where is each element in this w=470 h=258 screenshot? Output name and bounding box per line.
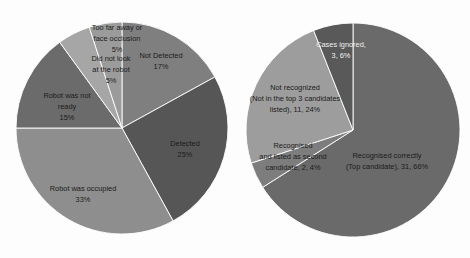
- pie-label-second-candidate-line-1: Recognised: [273, 141, 312, 150]
- pie-label-too-far-away-line-2: face occlusion: [94, 34, 141, 43]
- right-pie-slices: [246, 23, 460, 237]
- pie-label-not-detected-line-1: Not Detected: [139, 51, 182, 60]
- pie-label-not-recognized-line-2: (Not in the top 3 candidates: [250, 94, 341, 103]
- right-pie-chart-svg: Recognised correctly (Top candidate), 31…: [235, 0, 470, 258]
- pie-label-detected-line-2: 25%: [178, 150, 193, 159]
- pie-label-not-recognized-line-3: listed), 11, 24%: [270, 105, 321, 114]
- pie-label-recognised-correctly-line-2: (Top candidate), 31, 66%: [346, 162, 429, 171]
- pie-label-recognised-correctly-line-1: Recognised correctly: [352, 151, 421, 160]
- pie-label-robot-was-occupied-line-2: 33%: [76, 195, 91, 204]
- pie-label-not-detected-line-2: 17%: [154, 62, 169, 71]
- pie-label-not-recognized-line-1: Not recognized: [270, 83, 320, 92]
- pie-label-cases-ignored-line-1: Cases ignored,: [316, 40, 366, 49]
- pie-label-second-candidate-line-2: and listed as second: [259, 152, 326, 161]
- pie-label-second-candidate-line-3: candidate, 2, 4%: [265, 163, 320, 172]
- pie-label-robot-was-occupied-line-1: Robot was occupied: [50, 184, 117, 193]
- pie-label-robot-was-not-ready-line-3: 15%: [60, 113, 75, 122]
- pie-label-robot-was-not-ready-line-1: Robot was not: [43, 91, 90, 100]
- pie-label-robot-was-not-ready-line-2: ready: [58, 102, 77, 111]
- pie-label-did-not-look-line-3: 5%: [106, 76, 117, 85]
- pie-label-did-not-look-line-2: at the robot: [92, 65, 129, 74]
- left-pie-chart-panel: Not Detected 17% Detected 25% Robot was …: [0, 0, 235, 258]
- left-pie-chart-svg: Not Detected 17% Detected 25% Robot was …: [0, 0, 235, 258]
- pie-label-did-not-look-line-1: Did not look: [91, 54, 130, 63]
- pie-chart-figure: Not Detected 17% Detected 25% Robot was …: [0, 0, 470, 258]
- pie-label-cases-ignored-line-2: 3, 6%: [332, 51, 351, 60]
- pie-label-detected-line-1: Detected: [170, 139, 200, 148]
- right-pie-chart-panel: Recognised correctly (Top candidate), 31…: [235, 0, 470, 258]
- pie-label-too-far-away-line-1: Too far away or: [92, 23, 143, 32]
- pie-label-too-far-away-line-3: 5%: [112, 45, 123, 54]
